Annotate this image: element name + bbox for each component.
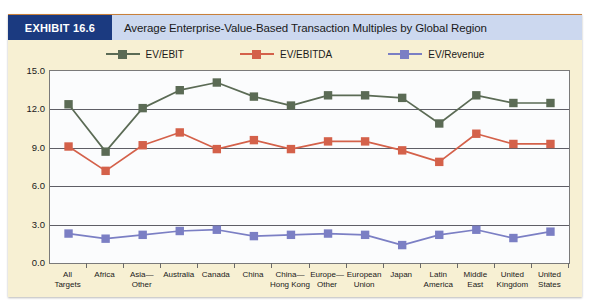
x-axis-tick [160,263,161,268]
data-point-marker [287,101,295,109]
y-axis-tick-label: 12.0 [11,103,45,114]
legend-swatch-icon [388,49,422,60]
data-point-marker [64,142,72,150]
series-layer [50,71,569,263]
data-point-marker [472,91,480,99]
legend-label: EV/EBITDA [280,49,332,60]
legend-swatch-icon [106,49,140,60]
y-axis-tick-label: 15.0 [11,65,45,76]
x-axis-tick [531,263,532,268]
data-point-marker [435,231,443,239]
data-point-marker [324,229,332,237]
data-point-marker [472,226,480,234]
x-axis-tick [309,263,310,268]
series-ev-ebitda [64,128,554,175]
legend-label: EV/EBIT [146,49,184,60]
legend-item-ev-ebitda: EV/EBITDA [240,49,332,60]
data-point-marker [509,99,517,107]
series-ev-ebit [64,78,554,156]
data-point-marker [398,241,406,249]
data-point-marker [546,227,554,235]
x-axis-tick [383,263,384,268]
data-point-marker [324,137,332,145]
data-point-marker [250,92,258,100]
chart-area: 0.03.06.09.012.015.0 AllTargetsAfricaAsi… [8,63,582,297]
data-point-marker [64,229,72,237]
chart-legend: EV/EBITEV/EBITDAEV/Revenue [8,45,582,63]
legend-swatch-icon [240,49,274,60]
data-point-marker [176,128,184,136]
data-point-marker [138,104,146,112]
x-axis-tick-label: UnitedStates [523,270,575,290]
x-axis-tick [271,263,272,268]
data-point-marker [101,234,109,242]
data-point-marker [176,86,184,94]
x-axis-tick [420,263,421,268]
x-axis: AllTargetsAfricaAsia—OtherAustraliaCanad… [49,263,568,293]
y-axis-tick-label: 3.0 [11,218,45,229]
x-axis-tick [197,263,198,268]
data-point-marker [101,167,109,175]
exhibit-title: Average Enterprise-Value-Based Transacti… [112,15,582,40]
data-point-marker [509,234,517,242]
y-axis-tick-label: 6.0 [11,180,45,191]
data-point-marker [287,231,295,239]
data-point-marker [324,91,332,99]
data-point-marker [138,141,146,149]
series-ev-revenue [64,226,554,250]
x-axis-tick [494,263,495,268]
exhibit-number-tag: EXHIBIT 16.6 [8,15,112,40]
data-point-marker [101,147,109,155]
y-axis-tick-label: 9.0 [11,141,45,152]
y-axis-tick-label: 0.0 [11,257,45,268]
data-point-marker [250,232,258,240]
data-point-marker [64,100,72,108]
x-axis-tick [568,263,569,268]
exhibit-title-bar: EXHIBIT 16.6 Average Enterprise-Value-Ba… [8,14,582,40]
legend-label: EV/Revenue [428,49,484,60]
data-point-marker [138,231,146,239]
data-point-marker [361,231,369,239]
data-point-marker [509,140,517,148]
data-point-marker [176,227,184,235]
data-point-marker [213,145,221,153]
x-axis-tick [234,263,235,268]
data-point-marker [472,130,480,138]
data-point-marker [398,146,406,154]
exhibit-figure: EXHIBIT 16.6 Average Enterprise-Value-Ba… [0,0,592,307]
data-point-marker [361,137,369,145]
data-point-marker [398,94,406,102]
data-point-marker [546,99,554,107]
data-point-marker [250,136,258,144]
x-axis-tick [457,263,458,268]
data-point-marker [361,91,369,99]
plot-region [49,70,570,264]
data-point-marker [287,145,295,153]
x-axis-tick [346,263,347,268]
data-point-marker [435,119,443,127]
series-line [69,132,551,170]
x-axis-tick [123,263,124,268]
data-point-marker [435,158,443,166]
legend-item-ev-revenue: EV/Revenue [388,49,484,60]
data-point-marker [213,226,221,234]
legend-item-ev-ebit: EV/EBIT [106,49,184,60]
data-point-marker [213,78,221,86]
data-point-marker [546,140,554,148]
x-axis-tick [86,263,87,268]
